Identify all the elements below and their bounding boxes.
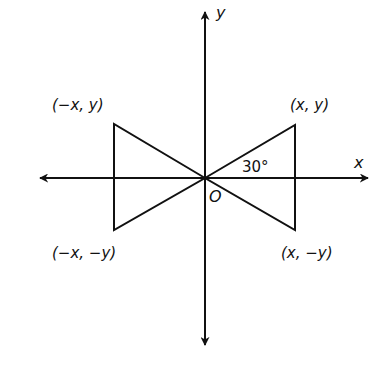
point-label-bottom-right: (x, −y) xyxy=(281,244,333,262)
point-label-top-right: (x, y) xyxy=(290,96,329,114)
angle-label: 30° xyxy=(242,158,269,176)
origin-label: O xyxy=(209,187,222,206)
coordinate-diagram: y x O 30° (−x, y) (x, y) (−x, −y) (x, −y… xyxy=(0,0,378,366)
point-label-bottom-left: (−x, −y) xyxy=(52,244,116,262)
point-label-top-left: (−x, y) xyxy=(52,96,104,114)
diagram-canvas: y x O 30° (−x, y) (x, y) (−x, −y) (x, −y… xyxy=(0,0,378,366)
y-axis-label: y xyxy=(215,3,226,22)
x-axis-label: x xyxy=(353,153,364,172)
